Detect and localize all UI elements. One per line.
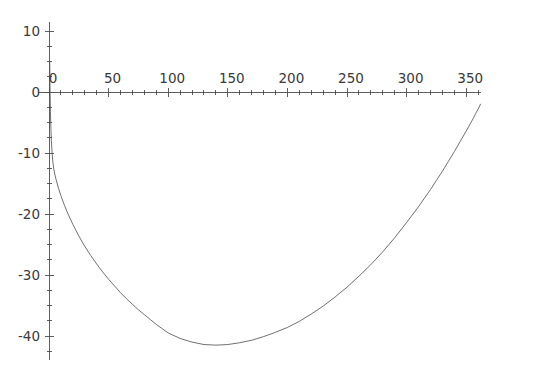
y-tick-label: -20 [18, 206, 40, 222]
y-axis-tick-labels: 100-10-20-30-40 [18, 23, 40, 344]
x-tick-label: 0 [49, 70, 58, 86]
x-tick-label: 50 [104, 70, 121, 86]
x-tick-label: 200 [279, 70, 305, 86]
y-tick-label: -10 [18, 145, 40, 161]
x-tick-label: 100 [159, 70, 185, 86]
x-tick-label: 150 [219, 70, 245, 86]
x-tick-label: 250 [338, 70, 364, 86]
x-tick-label: 350 [457, 70, 483, 86]
y-tick-label: -40 [18, 328, 40, 344]
x-tick-label: 300 [398, 70, 424, 86]
y-tick-label: 0 [31, 84, 40, 100]
curve-line [50, 62, 481, 346]
plot-canvas: 050100150200250300350 100-10-20-30-40 [0, 0, 535, 372]
data-series-group [50, 62, 481, 346]
y-tick-label: 10 [23, 23, 40, 39]
plot-figure: 050100150200250300350 100-10-20-30-40 [0, 0, 535, 372]
x-axis-tick-labels: 050100150200250300350 [49, 70, 483, 86]
y-tick-label: -30 [18, 267, 40, 283]
